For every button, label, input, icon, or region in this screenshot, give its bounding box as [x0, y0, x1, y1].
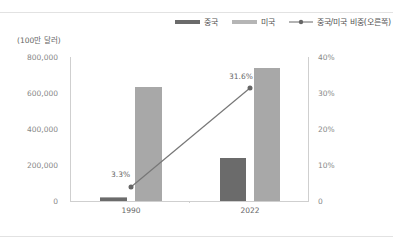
x-label-2022: 2022 [240, 206, 259, 215]
data-label-1990: 3.3% [111, 170, 130, 179]
bar-us-1990 [135, 87, 162, 201]
bar-china-2022 [220, 158, 246, 201]
bar-china-1990 [100, 197, 127, 201]
ratio-marker-1990 [129, 185, 134, 190]
bar-us-2022 [254, 68, 280, 201]
x-label-1990: 1990 [121, 206, 140, 215]
chart-plot [0, 0, 403, 238]
data-label-2022: 31.6% [229, 72, 253, 81]
ratio-marker-2022 [248, 86, 253, 91]
